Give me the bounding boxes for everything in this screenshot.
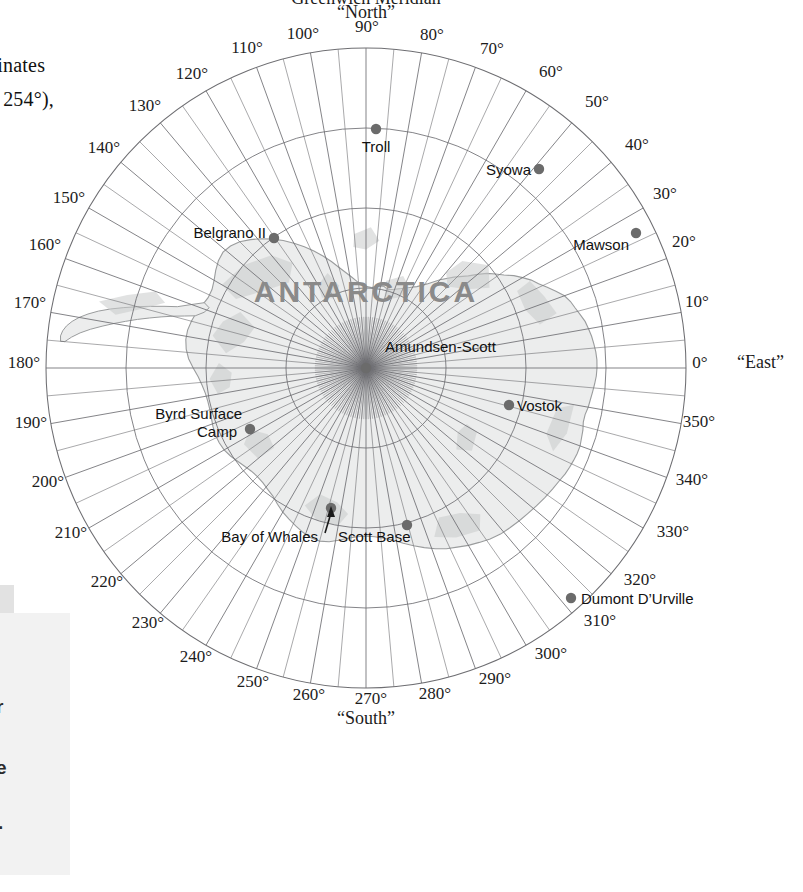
station-marker-dot	[631, 228, 641, 238]
degree-label-30: 30°	[653, 184, 677, 203]
degree-label-160: 160°	[29, 235, 61, 254]
station-name-label: Camp	[197, 423, 237, 440]
continent-name-label: ANTARCTICA	[254, 275, 478, 308]
degree-label-340: 340°	[676, 470, 708, 489]
degree-label-110: 110°	[231, 38, 263, 57]
degree-label-260: 260°	[293, 685, 325, 704]
station-byrd-camp-line2: Camp	[197, 423, 237, 440]
station-name-label: Vostok	[517, 397, 563, 414]
station-marker-dot	[361, 363, 371, 373]
degree-label-240: 240°	[180, 647, 212, 666]
degree-label-270: 270°	[355, 689, 387, 708]
station-marker-dot	[245, 424, 255, 434]
station-name-label: Syowa	[486, 161, 532, 178]
station-name-label: Scott Base	[338, 528, 411, 545]
degree-label-300: 300°	[535, 644, 567, 663]
station-marker-dot	[534, 164, 544, 174]
degree-label-280: 280°	[419, 684, 451, 703]
page-root: t ordinates sin 254°), r e . ANTARCTICA …	[0, 0, 803, 892]
degree-label-150: 150°	[53, 188, 85, 207]
degree-label-310: 310°	[584, 611, 616, 630]
degree-label-80: 80°	[420, 25, 444, 44]
degree-label-20: 20°	[672, 232, 696, 251]
station-name-label: Belgrano II	[193, 224, 266, 241]
station-name-label: Troll	[362, 138, 391, 155]
degree-label-10: 10°	[685, 292, 709, 311]
degree-label-190: 190°	[15, 413, 47, 432]
degree-label-50: 50°	[585, 92, 609, 111]
station-marker-dot	[566, 593, 576, 603]
station-name-label: Dumont D’Urville	[581, 590, 694, 607]
cardinal-label-south: “South”	[337, 708, 395, 728]
degree-label-70: 70°	[480, 39, 504, 58]
antarctica-polar-map: ANTARCTICA 0°10°20°30°40°50°60°70°80°90°…	[0, 0, 803, 892]
degree-label-0: 0°	[692, 353, 707, 372]
degree-label-100: 100°	[287, 24, 319, 43]
greenwich-meridian-title: Greenwich Meridian	[291, 0, 440, 8]
station-name-label: Byrd Surface	[155, 405, 242, 422]
degree-label-140: 140°	[88, 138, 120, 157]
degree-label-210: 210°	[55, 523, 87, 542]
degree-label-250: 250°	[237, 672, 269, 691]
degree-label-230: 230°	[132, 613, 164, 632]
degree-label-40: 40°	[625, 135, 649, 154]
cardinal-label-east: “East”	[737, 352, 784, 372]
station-marker-dot	[504, 400, 514, 410]
station-marker-dot	[269, 233, 279, 243]
degree-label-170: 170°	[14, 293, 46, 312]
degree-label-130: 130°	[129, 96, 161, 115]
station-marker-dot	[371, 124, 381, 134]
degree-label-320: 320°	[624, 570, 656, 589]
degree-label-180: 180°	[8, 353, 40, 372]
degree-label-200: 200°	[32, 472, 64, 491]
station-name-label: Mawson	[573, 236, 629, 253]
station-name-label: Bay of Whales	[221, 528, 318, 545]
degree-label-330: 330°	[657, 522, 689, 541]
degree-label-120: 120°	[176, 64, 208, 83]
degree-label-290: 290°	[479, 669, 511, 688]
station-syowa: Syowa	[486, 161, 544, 178]
station-mawson: Mawson	[573, 228, 641, 253]
degree-label-350: 350°	[683, 412, 715, 431]
degree-label-60: 60°	[539, 62, 563, 81]
degree-label-220: 220°	[91, 572, 123, 591]
station-dumont-d-urville: Dumont D’Urville	[566, 590, 694, 607]
station-name-label: Amundsen-Scott	[385, 338, 497, 355]
